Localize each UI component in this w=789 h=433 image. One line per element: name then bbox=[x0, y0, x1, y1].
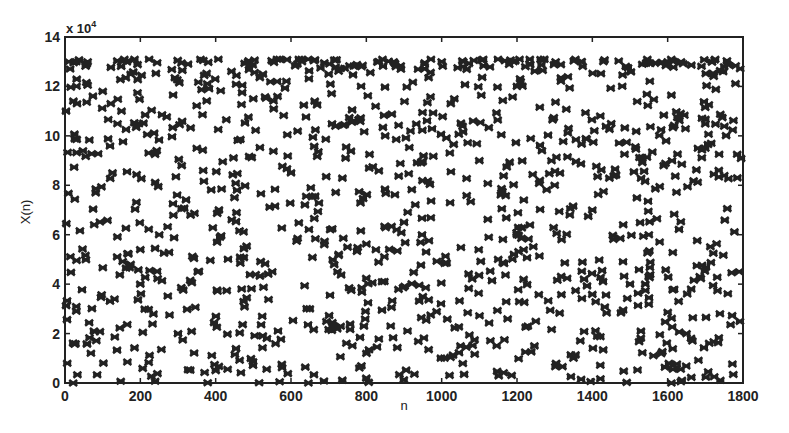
x-tick-label: 1400 bbox=[577, 388, 608, 404]
x-tick-label: 1800 bbox=[727, 388, 758, 404]
y-tick-label: 6 bbox=[52, 227, 60, 243]
y-tick-label: 10 bbox=[44, 128, 60, 144]
scatter-markers bbox=[62, 56, 745, 386]
scatter-chart: 020040060080010001200140016001800 024681… bbox=[0, 0, 789, 433]
y-tick-label: 14 bbox=[44, 29, 60, 45]
x-tick-label: 600 bbox=[279, 388, 303, 404]
y-tick-label: 4 bbox=[52, 276, 60, 292]
y-tick-label: 0 bbox=[52, 375, 60, 391]
x-tick-label: 1600 bbox=[652, 388, 683, 404]
y-multiplier-label: x 104 bbox=[66, 19, 96, 36]
y-axis-label: X(n) bbox=[18, 200, 33, 225]
data-points bbox=[62, 56, 745, 386]
x-tick-label: 1200 bbox=[501, 388, 532, 404]
x-tick-label: 800 bbox=[355, 388, 379, 404]
y-tick-label: 12 bbox=[44, 78, 60, 94]
x-tick-label: 1000 bbox=[426, 388, 457, 404]
x-tick-label: 200 bbox=[129, 388, 153, 404]
x-tick-label: 0 bbox=[61, 388, 69, 404]
y-tick-label: 2 bbox=[52, 326, 60, 342]
x-axis-label: n bbox=[400, 398, 407, 413]
x-tick-label: 400 bbox=[204, 388, 228, 404]
y-tick-label: 8 bbox=[52, 177, 60, 193]
